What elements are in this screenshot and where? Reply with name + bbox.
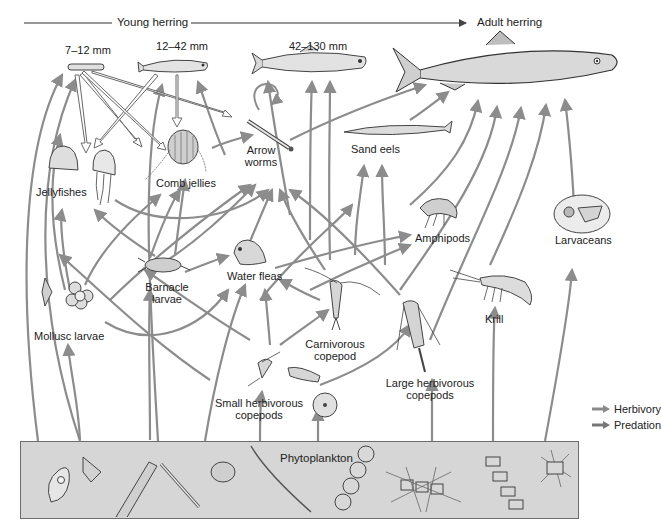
amphipod-icon [420,199,457,228]
herring-size-42-130mm: 42–130 mm [289,40,347,53]
legend: Herbivory Predation [592,401,661,433]
label-arrow-worms-2: worms [245,156,277,169]
water-flea-icon [234,240,266,265]
phytoplankton-label: Phytoplankton [280,452,353,464]
herring-larva-7-12mm-icon [68,64,104,70]
herring-size-7-12mm: 7–12 mm [65,44,111,57]
label-sand-eels: Sand eels [351,143,400,156]
label-comb-jellies: Comb jellies [156,177,216,190]
legend-predation-label: Predation [614,419,661,431]
label-carnivorous-2: copepod [314,350,356,363]
label-small-herb-2: copepods [235,409,283,422]
large-herbivorous-copepod-icon [397,301,440,372]
small-herbivorous-copepod-icon [248,352,320,386]
label-krill: Krill [485,313,503,326]
label-larvaceans: Larvaceans [555,234,612,247]
sand-eel-icon [344,121,452,135]
label-mollusc-larvae: Mollusc larvae [34,330,104,343]
adult-herring-icon [393,31,617,92]
herbivory-arrow-icon [592,405,610,413]
krill-icon [450,270,532,305]
predation-arrow-icon [592,421,610,429]
diatom-icon [313,393,337,417]
label-barnacle-2: larvae [152,293,182,306]
adult-herring-label: Adult herring [474,16,545,28]
label-amphipods: Amphipods [415,232,470,245]
legend-herbivory: Herbivory [592,401,661,417]
young-herring-label: Young herring [114,16,191,28]
label-large-herb-2: copepods [406,389,454,402]
label-water-fleas: Water fleas [227,270,282,283]
legend-herbivory-label: Herbivory [614,403,661,415]
legend-predation: Predation [592,417,661,433]
herring-size-12-42mm: 12–42 mm [156,40,208,53]
herring-12-42mm-icon [138,60,208,72]
label-jellyfishes: Jellyfishes [36,186,87,199]
larvacean-icon [554,195,610,233]
